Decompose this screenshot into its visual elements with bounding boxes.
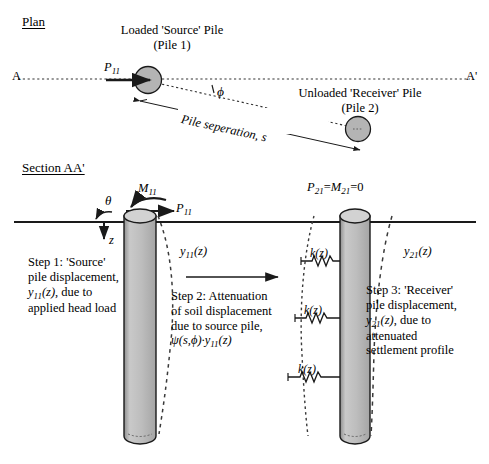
step3-line5: settlement profile (366, 343, 489, 358)
plan-angle-tick (212, 85, 214, 93)
receiver-pile-caption-line2: (Pile 2) (255, 101, 465, 116)
section-moment-arrow (131, 198, 166, 207)
plan-load-symbol: P (104, 60, 112, 74)
receiver-pile-caption-line1: Unloaded 'Receiver' Pile (255, 86, 465, 101)
step2-line2: of soil displacement (171, 304, 303, 319)
equals-zero: =0 (350, 180, 363, 194)
rotation-theta-label: θ (105, 193, 111, 208)
step2-text-block: Step 2: Attenuation of soil displacement… (171, 289, 303, 349)
step1-line2: pile displacement, (28, 270, 158, 285)
step2-line3: due to source pile, (171, 319, 303, 334)
spring-label-2: k(z) (304, 303, 322, 317)
moment-symbol: M (138, 181, 148, 195)
section-source-pile (124, 209, 156, 444)
step1-text-block: Step 1: 'Source' pile displacement, y11(… (28, 255, 158, 315)
receiver-head-condition-label: P21=M21=0 (307, 180, 363, 196)
plan-heading: Plan (22, 14, 45, 29)
step2-y-arg: (z) (219, 333, 232, 347)
source-displacement-label: y11(z) (180, 244, 207, 260)
receiver-displacement-subscript: 21 (410, 250, 419, 260)
step2-psi-args: (s,ϕ)· (179, 333, 205, 347)
step2-line1: Step 2: Attenuation (171, 289, 303, 304)
step1-line3: y11(z), due to (28, 285, 158, 301)
section-force-label: P11 (176, 201, 192, 217)
step3-y-arg: (z) (381, 313, 394, 327)
section-heading: Section AA' (22, 160, 85, 175)
plan-load-label: P11 (104, 60, 120, 76)
section-line-left-label: A (12, 69, 21, 84)
diagram-canvas (0, 0, 489, 464)
section-theta-arrow (96, 212, 112, 219)
spring-label-1: k(z) (310, 246, 328, 260)
plan-receiver-pile-circle (346, 117, 371, 142)
receiver-force-subscript: 21 (315, 186, 324, 196)
receiver-displacement-label: y21(z) (404, 244, 432, 260)
step1-y-subscript: 11 (34, 290, 42, 300)
step1-line4: applied head load (28, 301, 158, 316)
pile-interaction-diagram: Plan Loaded 'Source' Pile (Pile 1) Unloa… (0, 0, 489, 464)
step1-line1: Step 1: 'Source' (28, 255, 158, 270)
source-displacement-subscript: 11 (186, 250, 194, 260)
step3-text-block: Step 3: 'Receiver' pile displacement, y2… (366, 283, 489, 358)
depth-z-label: z (109, 233, 114, 248)
receiver-moment-symbol: M (331, 180, 341, 194)
step3-line3: y21(z), due to (366, 313, 489, 329)
step3-line1: Step 3: 'Receiver' (366, 283, 489, 298)
force-subscript: 11 (184, 207, 192, 217)
plan-load-subscript: 11 (112, 66, 120, 76)
step3-line3-tail: , due to (394, 313, 431, 327)
source-pile-caption-line1: Loaded 'Source' Pile (82, 23, 262, 38)
step1-line3-tail: , due to (55, 285, 92, 299)
step3-line2: pile displacement, (366, 298, 489, 313)
receiver-force-symbol: P (307, 180, 315, 194)
step1-y-arg: (z) (42, 285, 55, 299)
step2-line4: ψ(s,ϕ)·y11(z) (171, 333, 303, 349)
receiver-displacement-arg: (z) (419, 244, 432, 258)
step2-psi-symbol: ψ (171, 333, 179, 347)
step2-y-subscript: 11 (210, 339, 218, 349)
plan-angle-label: ϕ (217, 84, 224, 100)
source-pile-caption-line2: (Pile 1) (82, 38, 262, 53)
equals-1: = (324, 180, 331, 194)
section-moment-label: M11 (138, 181, 157, 197)
source-displacement-arg: (z) (194, 244, 207, 258)
step3-y-subscript: 21 (372, 318, 381, 328)
step3-line4: attenuated (366, 329, 489, 344)
force-symbol: P (176, 201, 184, 215)
section-line-right-label: A' (466, 69, 477, 84)
moment-subscript: 11 (148, 187, 156, 197)
spring-label-3: k(z) (298, 362, 316, 376)
receiver-moment-subscript: 21 (341, 186, 350, 196)
